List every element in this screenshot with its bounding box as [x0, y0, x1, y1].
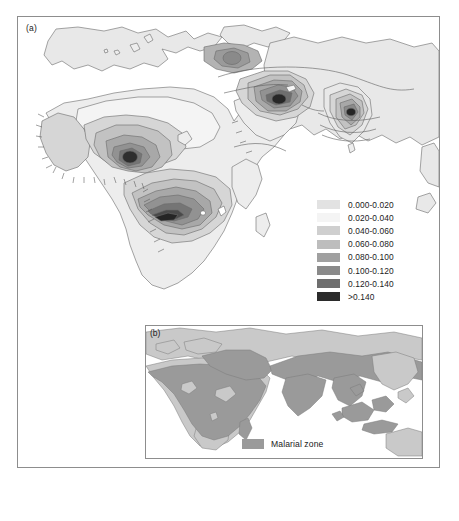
legend-row: 0.080-0.100: [317, 251, 394, 264]
panel-a-label: (a): [26, 23, 37, 33]
legend-label: 0.100-0.120: [348, 266, 394, 276]
legend-label: Malarial zone: [271, 439, 323, 449]
legend-swatch: [317, 213, 340, 222]
panel-b: (b): [145, 325, 423, 459]
legend-row: 0.000-0.020: [317, 198, 394, 211]
legend-label: 0.040-0.060: [348, 226, 394, 236]
legend-label: 0.120-0.140: [348, 279, 394, 289]
legend-swatch: [317, 200, 340, 209]
legend-panel-b: Malarial zone: [242, 439, 323, 449]
legend-swatch: [317, 253, 340, 262]
legend-label: >0.140: [348, 292, 374, 302]
legend-row: 0.060-0.080: [317, 238, 394, 251]
legend-swatch: [317, 279, 340, 288]
legend-row: 0.120-0.140: [317, 277, 394, 290]
legend-swatch: [317, 266, 340, 275]
panel-b-label: (b): [150, 328, 160, 338]
legend-swatch: [317, 240, 340, 249]
legend-swatch: [317, 226, 340, 235]
figure-root: (a): [0, 0, 459, 521]
legend-row: 0.100-0.120: [317, 264, 394, 277]
legend-label: 0.020-0.040: [348, 213, 394, 223]
legend-panel-a: 0.000-0.020 0.020-0.040 0.040-0.060 0.06…: [317, 198, 394, 304]
legend-label: 0.060-0.080: [348, 239, 394, 249]
legend-label: 0.080-0.100: [348, 252, 394, 262]
legend-row: 0.040-0.060: [317, 224, 394, 237]
legend-swatch: [317, 292, 340, 301]
legend-row: >0.140: [317, 290, 394, 303]
legend-label: 0.000-0.020: [348, 200, 394, 210]
legend-swatch: [242, 439, 264, 449]
legend-row: 0.020-0.040: [317, 211, 394, 224]
